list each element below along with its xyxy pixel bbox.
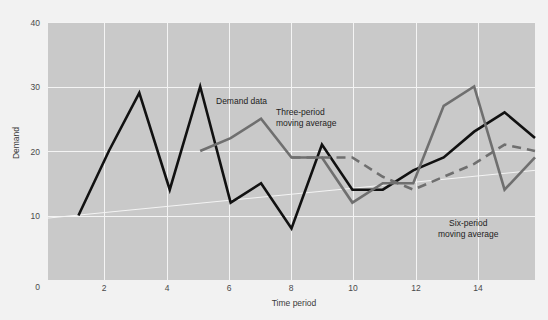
ytick-label-0: 0	[14, 282, 40, 292]
annotation-demand-data: Demand data	[216, 96, 267, 107]
plot-area: Demand data Three-period moving average …	[48, 22, 535, 280]
xtick-label-2: 2	[92, 283, 116, 293]
y-axis-title: Demand	[11, 113, 21, 173]
annotation-six-period: Six-period moving average	[438, 218, 498, 239]
annotation-three-period: Three-period moving average	[276, 107, 336, 128]
xtick-label-8: 8	[279, 283, 303, 293]
ytick-label-30: 30	[14, 82, 40, 92]
xtick-label-10: 10	[341, 283, 365, 293]
annotation-three-period-line1: Three-period	[276, 107, 336, 118]
annotation-three-period-line2: moving average	[276, 118, 336, 129]
xtick-label-6: 6	[217, 283, 241, 293]
xtick-label-4: 4	[155, 283, 179, 293]
demand-moving-average-chart: Demand data Three-period moving average …	[0, 0, 548, 320]
ytick-label-40: 40	[14, 18, 40, 28]
xtick-label-12: 12	[404, 283, 428, 293]
annotation-six-period-line1: Six-period	[438, 218, 498, 229]
trend-line-path	[48, 170, 535, 218]
xtick-label-14: 14	[466, 283, 490, 293]
ytick-label-10: 10	[14, 211, 40, 221]
series-layer	[48, 22, 535, 280]
annotation-six-period-line2: moving average	[438, 229, 498, 240]
x-axis-title: Time period	[239, 298, 349, 308]
